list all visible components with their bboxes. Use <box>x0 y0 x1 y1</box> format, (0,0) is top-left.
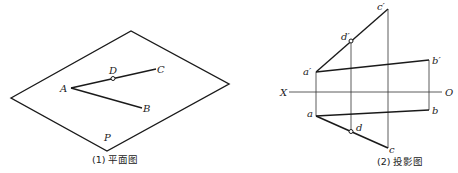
label-a-prime: a′ <box>303 66 312 77</box>
plane-p-parallelogram <box>11 31 229 151</box>
axis-label-x: X <box>279 87 288 98</box>
figure-plane-view: A D C B P (1) 平面图 <box>11 31 229 165</box>
label-c: C <box>157 64 165 75</box>
label-a: A <box>59 83 67 94</box>
axis-label-o: O <box>445 87 453 98</box>
label-a: a <box>307 108 313 119</box>
caption-plane-view: (1) 平面图 <box>92 154 138 165</box>
diagram-canvas: A D C B P (1) 平面图 X O c′ d′ a′ b′ a b d … <box>0 0 458 173</box>
label-c: c <box>389 144 395 155</box>
caption-projection-view: (2) 投影图 <box>377 156 423 167</box>
figure-projection-view: X O c′ d′ a′ b′ a b d c (2) 投影图 <box>279 1 453 167</box>
label-c-prime: c′ <box>377 1 386 12</box>
label-d: d <box>356 122 362 133</box>
label-d-prime: d′ <box>341 31 350 42</box>
label-d: D <box>108 65 117 76</box>
point-d-marker <box>111 77 115 81</box>
line-ab <box>71 88 142 108</box>
label-plane-p: P <box>103 132 111 143</box>
line-a-prime-b-prime <box>316 60 429 72</box>
line-a-b <box>316 110 429 116</box>
label-b-prime: b′ <box>432 55 441 66</box>
label-b: b <box>432 105 438 116</box>
point-d-marker-h <box>349 130 353 134</box>
label-b: B <box>142 103 150 114</box>
